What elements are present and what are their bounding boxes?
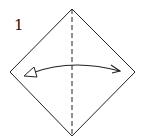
diagram-canvas	[0, 0, 143, 138]
fold-unfold-arrow	[32, 65, 120, 73]
hollow-arrowhead-icon	[24, 67, 37, 77]
